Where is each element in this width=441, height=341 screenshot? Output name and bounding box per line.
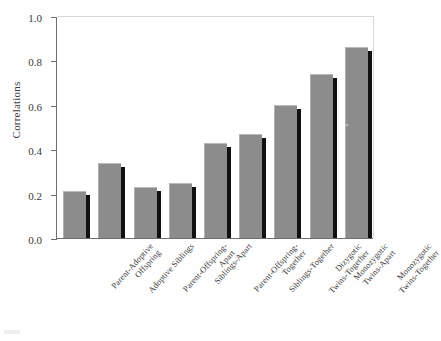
- bar-slot: [163, 183, 198, 239]
- bar[interactable]: [63, 191, 86, 238]
- bar[interactable]: [98, 163, 121, 238]
- bar[interactable]: [204, 143, 227, 238]
- y-axis-label: Correlations: [10, 50, 22, 170]
- bar[interactable]: [345, 47, 368, 238]
- y-axis-tick-label: 0.6: [28, 101, 42, 113]
- bar[interactable]: [169, 183, 192, 239]
- bar[interactable]: [239, 134, 262, 238]
- plot-area: 1.00.80.60.40.20.0: [56, 17, 373, 239]
- scan-corner-mark: [4, 330, 20, 334]
- bar-slot: [233, 134, 268, 238]
- bar-slot: [57, 191, 92, 238]
- y-axis-tick-label: 0.8: [28, 56, 42, 68]
- y-axis-tick: 0.4: [51, 150, 57, 151]
- bar[interactable]: [310, 74, 333, 238]
- x-axis-tick-labels: Parent-Adoptive OffspringAdoptive Siblin…: [56, 241, 373, 341]
- x-axis-tick-label: Monozygotic Twins-Together: [390, 241, 441, 295]
- y-axis-tick: 0.6: [51, 106, 57, 107]
- bar-slot: [268, 105, 303, 238]
- bar-slot: [127, 187, 162, 238]
- scan-speck: [346, 124, 348, 126]
- bar-slot: [92, 163, 127, 238]
- bar[interactable]: [274, 105, 297, 238]
- y-axis-tick-label: 0.2: [28, 190, 42, 202]
- x-axis-tick-label: Parent-Offspring- Together: [251, 241, 307, 300]
- bar[interactable]: [134, 187, 157, 238]
- bar-slot: [339, 47, 374, 238]
- y-axis-tick-label: 0.4: [28, 145, 42, 157]
- y-axis-tick: 0.0: [51, 239, 57, 240]
- bar-slot: [304, 74, 339, 238]
- y-axis-tick-label: 1.0: [28, 12, 42, 24]
- y-axis-tick: 1.0: [51, 17, 57, 18]
- bar-slot: [198, 143, 233, 238]
- y-axis-tick-label: 0.0: [28, 234, 42, 246]
- y-axis-tick: 0.8: [51, 61, 57, 62]
